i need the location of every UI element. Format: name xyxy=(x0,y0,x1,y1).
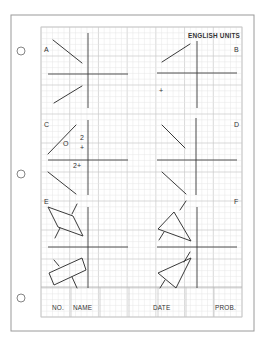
panel-label: A xyxy=(44,46,49,53)
binder-hole-icon xyxy=(17,294,25,302)
annotation-text: + xyxy=(159,87,163,94)
title-field-prob: PROB. xyxy=(215,304,236,311)
binder-hole-icon xyxy=(17,170,25,178)
panel-label: D xyxy=(234,121,239,128)
annotation-text: 2 xyxy=(80,134,84,141)
panel-label: B xyxy=(234,46,239,53)
graph-paper-worksheet: NO.NAMEDATEPROB. AB+CO2+2+DEF ENGLISH UN… xyxy=(0,0,267,345)
title-field-no: NO. xyxy=(52,304,64,311)
units-header: ENGLISH UNITS xyxy=(188,32,240,39)
annotation-text: 2+ xyxy=(73,162,81,169)
annotation-text: + xyxy=(80,144,84,151)
panel-label: C xyxy=(44,121,49,128)
panel-label: E xyxy=(44,198,49,205)
title-field-date: DATE xyxy=(153,304,170,311)
title-field-name: NAME xyxy=(73,304,92,311)
panel-label: F xyxy=(234,198,238,205)
page-background xyxy=(0,0,267,345)
binder-hole-icon xyxy=(17,47,25,55)
annotation-text: O xyxy=(63,140,69,147)
